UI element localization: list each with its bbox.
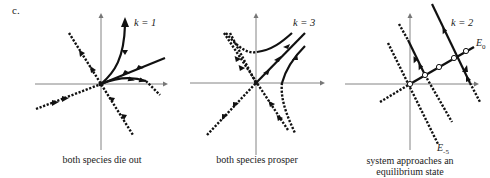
arrow-icons [52, 50, 127, 120]
trajectory-dotted [399, 24, 408, 40]
k-label-panel2: k = 3 [293, 17, 315, 28]
caption-panel3-line1: system approaches an [350, 155, 470, 166]
k-label-panel1: k = 1 [134, 17, 156, 28]
caption-panel1: both species die out [42, 154, 162, 165]
trajectory-dotted [36, 84, 101, 109]
caption-panel3: system approaches an equilibrium state [350, 155, 470, 177]
panel-k1 [35, 13, 168, 150]
e-minus-5-label: E-5 [437, 142, 449, 156]
caption-panel2: both species prosper [196, 154, 318, 165]
trajectory-dotted [207, 83, 256, 135]
trajectory-solid [257, 33, 292, 52]
trajectory-solid [408, 40, 425, 75]
e0-label: E0 [476, 37, 486, 51]
caption-panel3-line2: equilibrium state [350, 166, 470, 177]
k-label-panel3: k = 2 [451, 17, 473, 28]
trajectory-dotted [388, 43, 438, 144]
trajectory-dotted [380, 84, 410, 102]
panel-k3 [190, 13, 325, 155]
panel-label: c. [12, 4, 20, 16]
phase-portraits-figure [0, 0, 490, 178]
trajectory-dotted [425, 75, 452, 122]
